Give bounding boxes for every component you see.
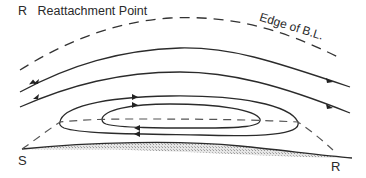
arrow-icon	[132, 102, 138, 108]
arrow-icon	[33, 94, 39, 99]
outer-streamline-2	[20, 72, 350, 113]
arrow-icon	[134, 131, 140, 137]
outer-recirculation-loop	[60, 96, 299, 136]
arrow-icon	[132, 94, 138, 100]
reattachment-point-label: R	[331, 159, 340, 174]
legend-text: Reattachment Point	[38, 4, 148, 18]
outer-streamline-1	[20, 48, 350, 92]
legend-symbol: R	[18, 4, 27, 18]
separation-bubble-diagram: R Reattachment Point Edge of B.L. S R	[0, 0, 366, 178]
arrow-icon	[134, 125, 140, 131]
legend: R Reattachment Point	[18, 4, 147, 18]
inner-recirculation-loop	[102, 104, 260, 128]
separation-point-label: S	[18, 153, 27, 168]
